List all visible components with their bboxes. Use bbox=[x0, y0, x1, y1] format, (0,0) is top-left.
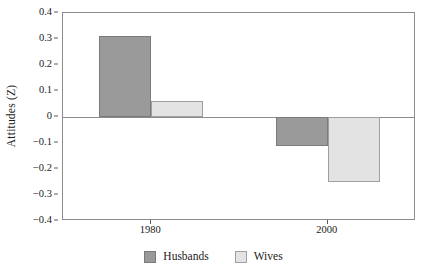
y-tick-label: −0.2 bbox=[33, 163, 52, 174]
y-tick-label: −0.3 bbox=[33, 189, 52, 200]
plot-area bbox=[62, 12, 415, 220]
y-tick-label: 0.2 bbox=[39, 59, 52, 70]
y-tick-label: 0 bbox=[47, 111, 52, 122]
y-axis-title: Attitudes (Z) bbox=[0, 0, 22, 232]
y-tick-mark bbox=[54, 64, 58, 65]
bar-chart-figure: Attitudes (Z) 0.40.30.20.10−0.1−0.2−0.3−… bbox=[0, 0, 427, 273]
legend-item-husbands[interactable]: Husbands bbox=[144, 251, 208, 263]
x-tick-label: 2000 bbox=[316, 225, 337, 236]
legend-label: Husbands bbox=[163, 251, 208, 263]
y-tick-label: −0.1 bbox=[33, 137, 52, 148]
chart-legend: HusbandsWives bbox=[0, 248, 427, 266]
y-axis-title-text: Attitudes (Z) bbox=[5, 85, 17, 147]
y-tick-mark bbox=[54, 142, 58, 143]
y-tick-mark bbox=[54, 90, 58, 91]
y-tick-mark bbox=[54, 168, 58, 169]
y-tick-mark bbox=[54, 194, 58, 195]
y-axis-ticks: 0.40.30.20.10−0.1−0.2−0.3−0.4 bbox=[22, 12, 58, 220]
bar-husbands-1980 bbox=[99, 36, 151, 117]
legend-item-wives[interactable]: Wives bbox=[235, 251, 283, 263]
y-tick-label: 0.3 bbox=[39, 33, 52, 44]
y-tick-label: −0.4 bbox=[33, 215, 52, 226]
y-tick-mark bbox=[54, 220, 58, 221]
legend-swatch-icon bbox=[235, 251, 247, 263]
x-tick-label: 1980 bbox=[140, 225, 161, 236]
bar-husbands-2000 bbox=[276, 117, 328, 146]
y-tick-mark bbox=[54, 116, 58, 117]
bar-wives-1980 bbox=[151, 101, 203, 117]
legend-label: Wives bbox=[254, 251, 283, 263]
bar-wives-2000 bbox=[328, 117, 380, 182]
y-tick-label: 0.4 bbox=[39, 7, 52, 18]
x-axis-ticks: 19802000 bbox=[62, 220, 415, 244]
y-tick-label: 0.1 bbox=[39, 85, 52, 96]
legend-swatch-icon bbox=[144, 251, 156, 263]
y-tick-mark bbox=[54, 38, 58, 39]
y-tick-mark bbox=[54, 12, 58, 13]
